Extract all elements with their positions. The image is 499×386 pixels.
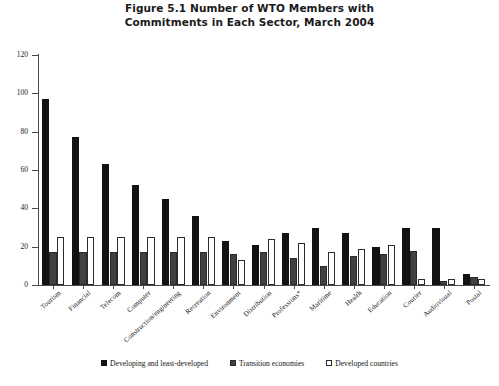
bar	[132, 185, 139, 285]
bar	[87, 237, 94, 285]
bar	[478, 279, 485, 285]
x-axis-label: Health	[343, 289, 363, 308]
chart-legend: Developing and least-developedTransition…	[0, 358, 499, 368]
bar	[200, 252, 207, 285]
bar	[162, 199, 169, 285]
x-tick	[233, 285, 234, 289]
x-axis-label: Professions*	[270, 289, 303, 320]
chart-title-line-1: Figure 5.1 Number of WTO Members with	[0, 2, 499, 16]
bar	[72, 137, 79, 285]
bar	[102, 164, 109, 285]
chart-title: Figure 5.1 Number of WTO Members with Co…	[0, 2, 499, 29]
bar-group	[128, 55, 158, 285]
x-axis-label: Environment	[209, 289, 242, 320]
bar-group	[248, 55, 278, 285]
bar	[268, 239, 275, 285]
bar	[260, 252, 267, 285]
bar	[402, 228, 409, 286]
legend-swatch-icon	[326, 360, 332, 366]
y-tick-label-100: 100	[0, 89, 28, 97]
bar-group	[279, 55, 309, 285]
x-axis-label: Distribution	[241, 289, 272, 318]
bar	[222, 241, 229, 285]
x-axis-label: Postal	[465, 289, 484, 307]
x-tick	[414, 285, 415, 289]
bar	[192, 216, 199, 285]
y-tick-label-120: 120	[0, 51, 28, 59]
y-tick-label-40: 40	[0, 204, 28, 212]
x-tick	[384, 285, 385, 289]
legend-swatch-icon	[230, 360, 236, 366]
x-axis-label: Financial	[67, 289, 92, 313]
bar	[140, 252, 147, 285]
bar	[418, 279, 425, 285]
x-axis-label: Construction/engineering	[123, 289, 183, 344]
bar	[57, 237, 64, 285]
legend-item: Transition economies	[230, 358, 304, 368]
bar-group	[399, 55, 429, 285]
bar-group	[158, 55, 188, 285]
legend-item: Developed countries	[326, 358, 398, 368]
legend-swatch-icon	[101, 360, 107, 366]
bar-group	[339, 55, 369, 285]
bar-group	[218, 55, 248, 285]
y-tick-0	[32, 285, 38, 286]
x-tick	[173, 285, 174, 289]
bar	[342, 233, 349, 285]
bar	[110, 252, 117, 285]
x-axis-label: Tourism	[39, 289, 62, 311]
bar	[358, 249, 365, 285]
bar	[177, 237, 184, 285]
x-tick	[203, 285, 204, 289]
chart-title-line-2: Commitments in Each Sector, March 2004	[0, 16, 499, 30]
x-axis-label: Maritime	[308, 289, 333, 313]
bar	[208, 237, 215, 285]
bar	[282, 233, 289, 285]
x-tick	[444, 285, 445, 289]
legend-label: Developed countries	[335, 359, 398, 368]
bar	[350, 256, 357, 285]
bar	[440, 281, 447, 285]
bar	[372, 247, 379, 285]
x-tick	[83, 285, 84, 289]
y-tick-label-60: 60	[0, 166, 28, 174]
bar	[298, 243, 305, 285]
bar	[380, 254, 387, 285]
x-tick	[354, 285, 355, 289]
y-tick-label-20: 20	[0, 243, 28, 251]
bar	[290, 258, 297, 285]
bar-group	[98, 55, 128, 285]
x-tick	[53, 285, 54, 289]
x-axis-label: Courier	[401, 289, 423, 310]
figure-container: Figure 5.1 Number of WTO Members with Co…	[0, 0, 499, 386]
bar	[117, 237, 124, 285]
y-tick-label-0: 0	[0, 281, 28, 289]
bar	[448, 279, 455, 285]
x-tick	[324, 285, 325, 289]
x-tick	[474, 285, 475, 289]
bar-group	[369, 55, 399, 285]
bar	[410, 251, 417, 286]
x-axis-label: Education	[366, 289, 393, 315]
x-tick	[143, 285, 144, 289]
bar	[320, 266, 327, 285]
x-axis-label: Audiovisual	[422, 289, 454, 319]
bar	[470, 277, 477, 285]
legend-label: Transition economies	[239, 359, 304, 368]
bar	[79, 252, 86, 285]
x-axis-label: Telecom	[99, 289, 123, 311]
bar	[328, 252, 335, 285]
bar-group	[429, 55, 459, 285]
bar	[230, 254, 237, 285]
bar	[170, 252, 177, 285]
bar	[252, 245, 259, 285]
bar	[42, 99, 49, 285]
bar	[463, 274, 470, 286]
bar-group	[188, 55, 218, 285]
x-tick	[113, 285, 114, 289]
bar	[49, 252, 56, 285]
legend-item: Developing and least-developed	[101, 358, 208, 368]
x-tick	[264, 285, 265, 289]
bar	[238, 260, 245, 285]
x-tick	[294, 285, 295, 289]
